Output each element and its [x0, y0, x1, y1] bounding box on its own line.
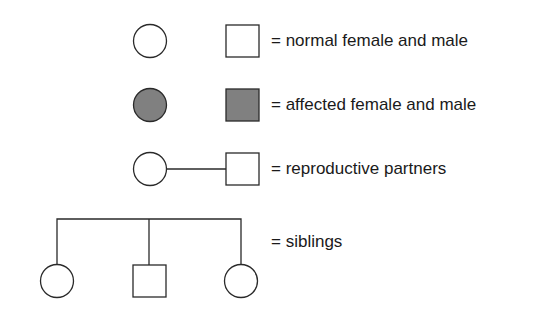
affected-label: = affected female and male	[271, 95, 476, 115]
affected-female-symbol	[134, 89, 167, 122]
normal-female-symbol	[134, 25, 167, 58]
sibling-male-symbol	[133, 265, 166, 297]
affected-male-symbol	[226, 89, 259, 121]
partner-female-symbol	[134, 153, 167, 186]
normal-male-symbol	[226, 25, 259, 57]
normal-label: = normal female and male	[271, 31, 468, 51]
siblings-label: = siblings	[271, 232, 342, 252]
sibling-female-symbol-1	[41, 265, 74, 298]
sibling-female-symbol-2	[225, 265, 258, 298]
partner-male-symbol	[226, 153, 259, 185]
partners-label: = reproductive partners	[271, 159, 446, 179]
